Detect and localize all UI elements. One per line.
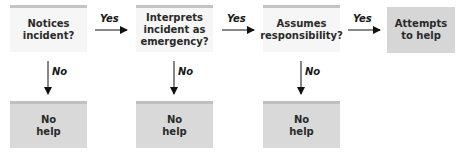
yes-label-1: Yes <box>100 13 119 24</box>
no-help-1-line-2: help <box>36 126 61 137</box>
no-help-2-line-2: help <box>162 126 187 137</box>
step-2-line-3: emergency? <box>140 36 208 47</box>
step-2-line-2: incident as <box>144 24 206 35</box>
step-interprets-emergency: Interpretsincident asemergency? <box>136 5 213 52</box>
no-label-2: No <box>178 66 193 77</box>
no-help-2-line-1: No <box>167 114 182 125</box>
yes-label-2: Yes <box>227 13 246 24</box>
outcome-attempts-to-help: Attemptsto help <box>387 7 455 53</box>
no-label-1: No <box>52 66 67 77</box>
no-help-1-line-1: No <box>41 114 56 125</box>
no-help-3-line-2: help <box>289 126 314 137</box>
no-help-3-line-1: No <box>294 114 309 125</box>
step-3-line-2: responsibility? <box>260 30 343 41</box>
step-2-line-1: Interprets <box>146 12 203 23</box>
yes-label-3: Yes <box>353 13 372 24</box>
outcome-no-help-3: Nohelp <box>263 101 340 148</box>
step-notices-incident: Noticesincident? <box>10 5 87 52</box>
step-assumes-responsibility: Assumesresponsibility? <box>263 5 340 52</box>
final-line-2: to help <box>401 30 441 41</box>
step-1-line-1: Notices <box>27 18 69 29</box>
outcome-no-help-1: Nohelp <box>10 101 87 148</box>
no-label-3: No <box>305 66 320 77</box>
final-line-1: Attempts <box>395 18 447 29</box>
outcome-no-help-2: Nohelp <box>136 101 213 148</box>
step-3-line-1: Assumes <box>277 18 327 29</box>
step-1-line-2: incident? <box>23 30 75 41</box>
